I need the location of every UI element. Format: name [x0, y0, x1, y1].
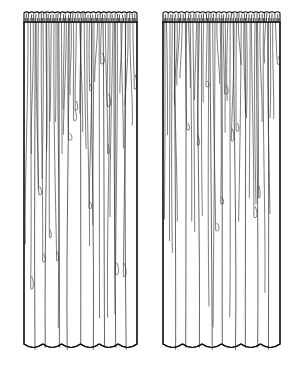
curtain-illustration — [0, 0, 300, 373]
left-curtain-panel — [24, 12, 137, 350]
right-curtain-panel — [163, 12, 280, 350]
curtain-line-drawing — [0, 0, 300, 373]
shirred-header-band — [24, 12, 137, 22]
panel-body-outline — [163, 22, 280, 348]
